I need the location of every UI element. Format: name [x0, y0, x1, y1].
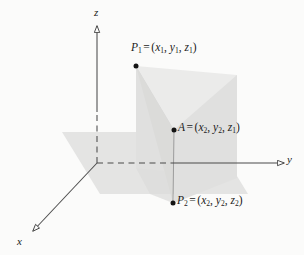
z-axis-label: z: [94, 7, 98, 18]
point-name-p2: P: [177, 194, 184, 206]
coord-sub-a-z: 1: [232, 126, 236, 135]
point-dot-a: [172, 128, 177, 133]
coord-sub-p2-x: 2: [206, 199, 210, 208]
coord-sub-a-x: 2: [203, 126, 207, 135]
equals-sign-p1: =: [142, 41, 152, 53]
coord-sub-a-y: 2: [218, 126, 222, 135]
point-label-a: A=(x2, y2, z1): [178, 122, 240, 134]
point-dot-p2: [171, 201, 176, 206]
coord-sub-p1-z: 1: [189, 46, 193, 55]
coord-sub-p2-y: 2: [221, 199, 225, 208]
coordinate-system-figure: z y x P1=(x1, y1, z1) A=(x2, y2, z1) P2=…: [0, 0, 304, 255]
point-name-p1: P: [131, 41, 138, 53]
coord-sub-p1-x: 1: [160, 46, 164, 55]
point-label-p2: P2=(x2, y2, z2): [177, 195, 243, 207]
coord-sub-p1-y: 1: [175, 46, 179, 55]
point-dot-p1: [134, 64, 139, 69]
point-name-a: A: [178, 121, 185, 133]
equals-sign-a: =: [185, 121, 195, 133]
x-axis-solid: [33, 163, 97, 231]
coord-sub-p2-z: 2: [235, 199, 239, 208]
figure-canvas: [0, 0, 304, 255]
point-label-p1: P1=(x1, y1, z1): [131, 42, 197, 54]
equals-sign-p2: =: [188, 194, 198, 206]
y-axis-label: y: [287, 154, 292, 165]
x-axis-label: x: [17, 236, 22, 247]
